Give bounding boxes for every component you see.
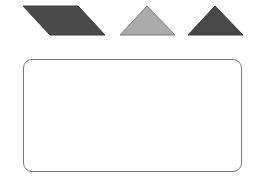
tangram-pieces [0,0,257,45]
dark-parallelogram-piece[interactable] [23,6,105,35]
target-drop-area[interactable] [23,59,242,172]
dark-triangle-piece[interactable] [188,6,243,35]
light-triangle-piece[interactable] [120,6,175,35]
